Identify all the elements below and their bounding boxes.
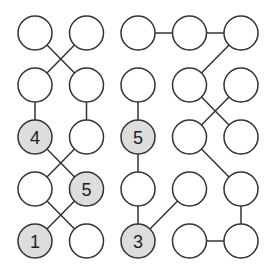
empty-node[interactable] [121, 172, 155, 206]
clue-node[interactable]: 1 [18, 224, 52, 258]
empty-node[interactable] [18, 172, 52, 206]
empty-node[interactable] [224, 68, 258, 102]
node-circle[interactable] [224, 172, 258, 206]
node-circle[interactable] [173, 16, 207, 50]
node-circle[interactable] [70, 68, 104, 102]
empty-node[interactable] [121, 68, 155, 102]
clue-number: 3 [133, 232, 143, 252]
empty-node[interactable] [224, 224, 258, 258]
bridge-link[interactable] [150, 201, 178, 229]
node-circle[interactable] [224, 120, 258, 154]
puzzle-board: 45513 [0, 0, 277, 274]
empty-node[interactable] [70, 16, 104, 50]
empty-node[interactable] [173, 68, 207, 102]
empty-node[interactable] [70, 120, 104, 154]
node-circle[interactable] [173, 172, 207, 206]
node-circle[interactable] [18, 68, 52, 102]
node-circle[interactable] [18, 172, 52, 206]
empty-node[interactable] [224, 16, 258, 50]
empty-node[interactable] [70, 68, 104, 102]
clue-node[interactable]: 3 [121, 224, 155, 258]
node-circle[interactable] [121, 172, 155, 206]
clue-node[interactable]: 4 [18, 120, 52, 154]
clue-number: 4 [30, 128, 40, 148]
node-circle[interactable] [173, 224, 207, 258]
node-circle[interactable] [70, 120, 104, 154]
node-circle[interactable] [224, 224, 258, 258]
clue-number: 5 [133, 128, 143, 148]
node-circle[interactable] [224, 68, 258, 102]
node-circle[interactable] [70, 224, 104, 258]
bridge-link[interactable] [201, 149, 229, 177]
empty-node[interactable] [173, 16, 207, 50]
empty-node[interactable] [70, 224, 104, 258]
empty-node[interactable] [173, 172, 207, 206]
clue-node[interactable]: 5 [70, 172, 104, 206]
empty-node[interactable] [224, 172, 258, 206]
node-circle[interactable] [121, 16, 155, 50]
clue-node[interactable]: 5 [121, 120, 155, 154]
node-circle[interactable] [173, 68, 207, 102]
clue-number: 5 [81, 180, 91, 200]
clue-number: 1 [30, 232, 40, 252]
node-circle[interactable] [18, 16, 52, 50]
empty-node[interactable] [173, 224, 207, 258]
node-circle[interactable] [70, 16, 104, 50]
node-circle[interactable] [121, 68, 155, 102]
node-circle[interactable] [224, 16, 258, 50]
node-circle[interactable] [173, 120, 207, 154]
empty-node[interactable] [121, 16, 155, 50]
empty-node[interactable] [18, 16, 52, 50]
bridge-link[interactable] [201, 45, 229, 73]
empty-node[interactable] [173, 120, 207, 154]
empty-node[interactable] [18, 68, 52, 102]
empty-node[interactable] [224, 120, 258, 154]
